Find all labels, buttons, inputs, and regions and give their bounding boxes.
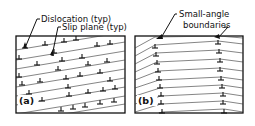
panel-b: Small-angle boundaries (b) <box>135 9 243 116</box>
dislocation-leader <box>25 19 40 48</box>
panel-a: Dislocation (typ) Slip plane (typ) (a) <box>16 14 127 118</box>
boundaries-label-line2: boundaries <box>183 20 231 30</box>
boundary-arrowhead-right <box>214 34 220 39</box>
dislocation-diagram: Dislocation (typ) Slip plane (typ) (a) <box>0 0 255 126</box>
panel-b-label: (b) <box>138 95 153 106</box>
boundaries-label-line1: Small-angle <box>179 9 229 19</box>
dislocations-b <box>152 40 227 113</box>
boundary-leader-left <box>161 14 177 38</box>
slip-plane-label: Slip plane (typ) <box>62 22 127 32</box>
panel-a-label: (a) <box>19 95 34 106</box>
